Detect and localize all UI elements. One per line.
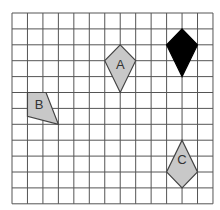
black-kite-shape <box>167 29 198 77</box>
shape-label-b: B <box>35 97 44 112</box>
grid-diagram: A B C <box>0 0 220 210</box>
shape-label-c: C <box>177 152 186 167</box>
shape-label-a: A <box>116 57 125 72</box>
